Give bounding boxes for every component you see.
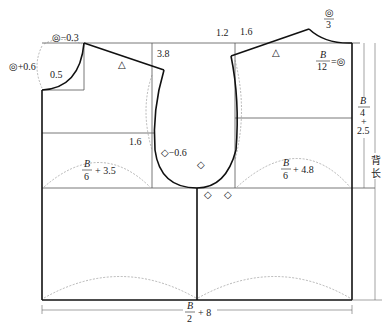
svg-text:2.5: 2.5 bbox=[357, 125, 370, 136]
label-front-width: B 6 + 4.8 bbox=[281, 157, 314, 181]
label-front-neck-width: B 12 =◎ bbox=[316, 49, 345, 72]
label-front-shoulder-drop-1: 1.2 bbox=[216, 27, 229, 38]
label-diamond-2: ◇ bbox=[204, 189, 212, 200]
svg-text:+ 3.5: + 3.5 bbox=[95, 165, 116, 176]
svg-text:B: B bbox=[320, 49, 326, 60]
svg-text:B: B bbox=[283, 157, 289, 168]
svg-text:6: 6 bbox=[283, 170, 288, 181]
label-total-width: B 2 + 8 bbox=[183, 300, 217, 326]
svg-text:6: 6 bbox=[84, 171, 89, 182]
svg-text:背: 背 bbox=[371, 154, 381, 166]
svg-text:+ 4.8: + 4.8 bbox=[293, 164, 314, 175]
label-back-neck-width: ◎−0.3 bbox=[52, 32, 79, 43]
label-back-length: 背 长 bbox=[370, 153, 382, 179]
svg-text:长: 长 bbox=[371, 168, 381, 179]
label-front-shoulder-length: △ bbox=[272, 47, 280, 58]
label-back-neck-curve: 0.5 bbox=[50, 69, 63, 80]
svg-text:B: B bbox=[187, 300, 193, 311]
pattern-diagram: ◎−0.3 ◎+0.6 0.5 3.8 △ 1.6 ◇−0.6 B 6 + 3.… bbox=[0, 0, 391, 327]
svg-text:◎: ◎ bbox=[325, 7, 334, 18]
svg-text:B: B bbox=[360, 95, 366, 106]
label-back-armhole-diamond: ◇−0.6 bbox=[161, 147, 187, 158]
label-back-shoulder-length: △ bbox=[118, 59, 126, 70]
dimension-lines bbox=[42, 43, 382, 314]
label-armhole-depth: B 4 + 2.5 bbox=[357, 95, 372, 138]
label-diamond-3: ◇ bbox=[224, 189, 232, 200]
svg-text:3: 3 bbox=[326, 19, 331, 30]
label-back-width: B 6 + 3.5 bbox=[82, 158, 116, 182]
svg-text:2: 2 bbox=[187, 313, 192, 324]
label-back-armhole-point: 1.6 bbox=[129, 136, 142, 147]
svg-text:B: B bbox=[84, 158, 90, 169]
svg-text:=◎: =◎ bbox=[331, 56, 345, 67]
label-front-shoulder-drop-2: 1.6 bbox=[240, 26, 253, 37]
label-back-neck-depth: ◎+0.6 bbox=[9, 61, 36, 72]
label-back-shoulder-drop: 3.8 bbox=[157, 48, 170, 59]
svg-text:12: 12 bbox=[317, 61, 327, 72]
label-diamond-1: ◇ bbox=[197, 159, 205, 170]
label-front-neck-ratio: ◎ 3 bbox=[324, 7, 334, 30]
svg-text:+ 8: + 8 bbox=[198, 307, 211, 318]
